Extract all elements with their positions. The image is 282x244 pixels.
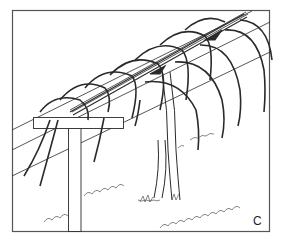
vine-trunk — [154, 72, 180, 200]
vine-trellis-illustration: C — [0, 0, 282, 244]
t-post — [34, 118, 124, 232]
trellis-wires — [12, 11, 270, 176]
vine-canes — [24, 18, 272, 186]
panel-label: C — [253, 214, 262, 228]
illustration-svg — [0, 0, 282, 244]
